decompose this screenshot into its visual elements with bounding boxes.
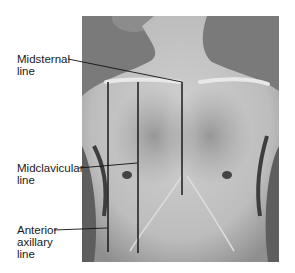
anterior-axillary-leader <box>54 228 107 230</box>
label-midclavicular-line: Midclavicular line <box>17 162 83 186</box>
label-anterior-axillary-line: Anterior axillary line <box>17 224 57 260</box>
label-midsternal-line: Midsternal line <box>17 53 70 77</box>
chest-landmarks-figure: Midsternal line Midclavicular line Anter… <box>0 0 295 273</box>
midsternal-leader <box>68 59 182 82</box>
